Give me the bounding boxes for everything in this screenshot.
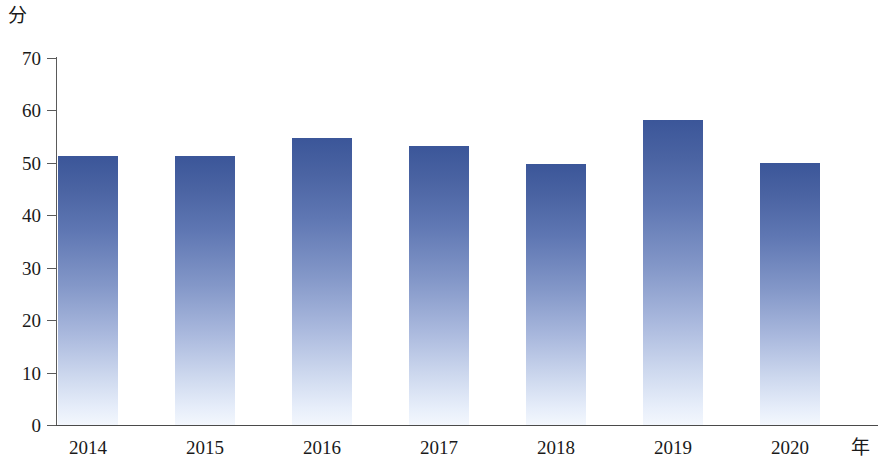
x-tick-label: 2014 bbox=[69, 438, 107, 457]
plot-area: 010203040506070 bbox=[56, 58, 876, 425]
x-tick-label: 2016 bbox=[303, 438, 341, 457]
x-tick-label: 2017 bbox=[420, 438, 458, 457]
y-axis-unit-label: 分 bbox=[8, 4, 27, 26]
bar-2016 bbox=[292, 138, 352, 425]
bar-2019 bbox=[643, 120, 703, 425]
y-tick-label: 60 bbox=[22, 101, 41, 120]
y-tick-label: 20 bbox=[22, 311, 41, 330]
x-axis-line bbox=[56, 425, 878, 426]
x-axis-unit-label: 年 bbox=[851, 437, 870, 457]
x-tick-label: 2020 bbox=[771, 438, 809, 457]
x-tick-label: 2015 bbox=[186, 438, 224, 457]
y-tick-mark bbox=[47, 373, 56, 374]
y-tick-mark bbox=[47, 110, 56, 111]
y-tick-label: 0 bbox=[32, 416, 42, 435]
y-tick-mark bbox=[47, 215, 56, 216]
y-tick-label: 50 bbox=[22, 153, 41, 172]
y-tick-label: 30 bbox=[22, 258, 41, 277]
bar-2017 bbox=[409, 146, 469, 425]
y-tick-mark bbox=[47, 163, 56, 164]
y-tick-mark bbox=[47, 320, 56, 321]
y-tick-label: 40 bbox=[22, 206, 41, 225]
y-tick-mark bbox=[47, 425, 56, 426]
y-tick-label: 70 bbox=[22, 49, 41, 68]
y-tick-label: 10 bbox=[22, 363, 41, 382]
bar-2015 bbox=[175, 156, 235, 425]
x-tick-label: 2018 bbox=[537, 438, 575, 457]
y-tick-mark bbox=[47, 268, 56, 269]
y-tick-mark bbox=[47, 58, 56, 59]
bar-chart: 分 010203040506070 年 20142015201620172018… bbox=[0, 0, 886, 459]
bar-2020 bbox=[760, 163, 820, 425]
x-tick-label: 2019 bbox=[654, 438, 692, 457]
bar-2014 bbox=[58, 156, 118, 425]
bar-2018 bbox=[526, 164, 586, 425]
